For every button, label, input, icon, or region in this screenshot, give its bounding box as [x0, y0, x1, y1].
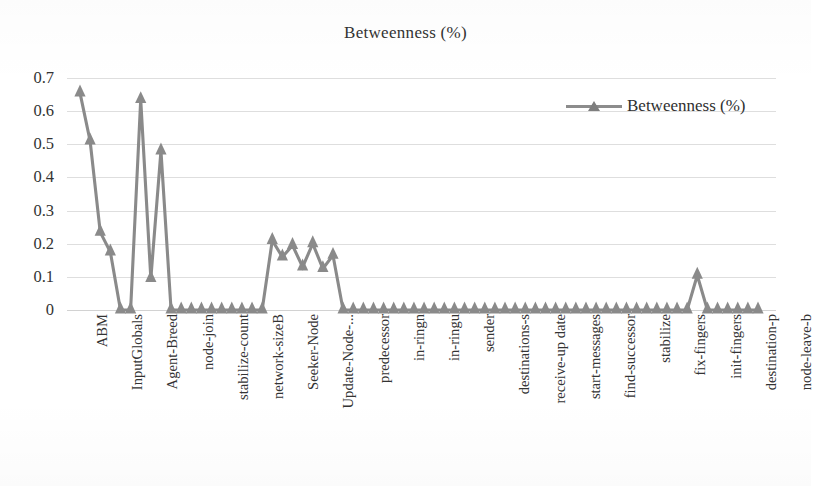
data-point-marker [155, 143, 166, 155]
data-point-marker [338, 302, 349, 314]
data-point-marker [651, 302, 662, 314]
data-point-marker [520, 302, 531, 314]
y-axis-tick-label: 0.7 [33, 68, 54, 88]
data-point-marker [661, 302, 672, 314]
legend-label: Betweenness (%) [627, 96, 746, 116]
y-axis-tick-label: 0.4 [33, 167, 54, 187]
data-point-marker [246, 302, 257, 314]
x-axis: ABMInputGlobalsAgent-Breednode-joinstabi… [0, 314, 811, 486]
x-axis-tick-label: Seeker-Node [305, 314, 322, 474]
data-point-marker [378, 302, 389, 314]
data-point-marker [125, 302, 136, 314]
data-point-marker [85, 133, 96, 145]
data-point-marker [408, 302, 419, 314]
data-point-marker [165, 302, 176, 314]
data-point-marker [429, 302, 440, 314]
data-point-marker [186, 302, 197, 314]
x-axis-tick-label: stabilize [657, 314, 674, 474]
data-point-marker [752, 302, 763, 314]
data-point-marker [722, 302, 733, 314]
y-axis-tick-label: 0.1 [33, 266, 54, 286]
x-axis-tick-label: destinations-s [516, 314, 533, 474]
data-point-marker [692, 267, 703, 279]
data-point-marker [489, 302, 500, 314]
x-axis-tick-label: stabilize-count [235, 314, 252, 474]
x-axis-tick-label: Update-Node-... [340, 314, 357, 474]
data-point-marker [398, 302, 409, 314]
data-point-marker [196, 302, 207, 314]
data-point-marker [712, 302, 723, 314]
data-point-marker [682, 302, 693, 314]
data-point-marker [267, 232, 278, 244]
data-point-marker [742, 302, 753, 314]
data-point-marker [560, 302, 571, 314]
data-point-marker [601, 302, 612, 314]
x-axis-tick-label: Agent-Breed [164, 314, 181, 474]
y-axis-tick-label: 0.2 [33, 233, 54, 253]
y-axis: 00.10.20.30.40.50.60.7 [0, 78, 62, 310]
data-point-marker [611, 302, 622, 314]
data-point-marker [307, 235, 318, 247]
x-axis-tick-label: ABM [94, 314, 111, 474]
chart-legend: Betweenness (%) [566, 93, 746, 119]
data-point-marker [145, 270, 156, 282]
data-point-marker [368, 302, 379, 314]
data-point-marker [418, 302, 429, 314]
x-axis-tick-label: fix-fingers [692, 314, 709, 474]
data-point-marker [236, 302, 247, 314]
data-point-marker [388, 302, 399, 314]
series-line [80, 93, 758, 310]
x-axis-tick-label: in-ringn [411, 314, 428, 474]
x-axis-tick-label: predecessor [376, 314, 393, 474]
x-axis-tick-label: node-leave-b [798, 314, 815, 474]
data-point-marker [702, 302, 713, 314]
data-point-marker [257, 302, 268, 314]
data-point-marker [570, 302, 581, 314]
data-point-marker [176, 302, 187, 314]
data-point-marker [115, 302, 126, 314]
x-axis-tick-label: receive-up date [552, 314, 569, 474]
x-axis-tick-label: network-sizeB [270, 314, 287, 474]
data-point-marker [206, 302, 217, 314]
data-point-marker [358, 302, 369, 314]
x-axis-tick-label: find-successor [622, 314, 639, 474]
x-axis-tick-label: node-join [200, 314, 217, 474]
data-point-marker [439, 302, 450, 314]
y-axis-tick-label: 0.5 [33, 134, 54, 154]
y-axis-tick-label: 0.3 [33, 200, 54, 220]
data-point-marker [621, 302, 632, 314]
x-axis-tick-label: InputGlobals [129, 314, 146, 474]
legend-marker-icon [566, 99, 622, 113]
x-axis-tick-label: in-ringu [446, 314, 463, 474]
data-point-marker [550, 302, 561, 314]
data-point-marker [580, 302, 591, 314]
data-point-marker [540, 302, 551, 314]
data-point-marker [459, 302, 470, 314]
data-point-marker [590, 302, 601, 314]
data-point-marker [469, 302, 480, 314]
data-point-marker [530, 302, 541, 314]
y-axis-tick-label: 0.6 [33, 101, 54, 121]
x-axis-tick-label: sender [481, 314, 498, 474]
chart-title: Betweenness (%) [0, 23, 811, 43]
data-point-marker [226, 302, 237, 314]
data-point-marker [327, 247, 338, 259]
data-point-marker [510, 302, 521, 314]
data-point-marker [671, 302, 682, 314]
data-point-marker [732, 302, 743, 314]
data-point-marker [216, 302, 227, 314]
data-point-marker [287, 237, 298, 249]
x-axis-tick-label: start-messages [587, 314, 604, 474]
data-point-marker [631, 302, 642, 314]
data-point-marker [95, 224, 106, 236]
data-point-marker [135, 91, 146, 103]
data-point-marker [74, 85, 85, 97]
x-axis-tick-label: destination-p [763, 314, 780, 474]
data-point-marker [479, 302, 490, 314]
x-axis-tick-label: init-fingers [728, 314, 745, 474]
data-point-marker [348, 302, 359, 314]
data-point-marker [641, 302, 652, 314]
data-point-marker [499, 302, 510, 314]
data-point-marker [449, 302, 460, 314]
